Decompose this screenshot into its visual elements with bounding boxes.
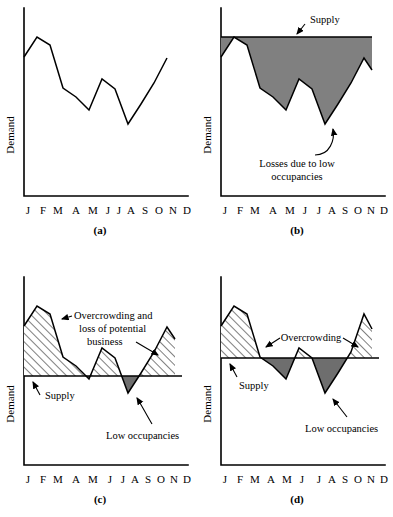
chart-c-ylabel: Demand bbox=[4, 385, 16, 423]
chart-c-month-labels: J F M A M J J A S O N D bbox=[26, 473, 191, 485]
month-label: F bbox=[237, 204, 243, 216]
chart-b-ylabel: Demand bbox=[201, 116, 213, 154]
losses-leader-arrow bbox=[315, 129, 333, 155]
panel-a-caption: (a) bbox=[94, 224, 107, 237]
month-label: M bbox=[250, 204, 260, 216]
panel-b-caption: (b) bbox=[290, 224, 304, 237]
month-label: O bbox=[157, 473, 165, 485]
chart-d-overcrowding-annotation: Overcrowding bbox=[266, 332, 358, 347]
panel-c: Overcrowding and loss of potential busin… bbox=[0, 259, 196, 517]
month-label: S bbox=[342, 204, 348, 216]
overcrowding-label-line3: business bbox=[87, 336, 123, 347]
month-label: F bbox=[40, 473, 46, 485]
month-label: N bbox=[367, 473, 375, 485]
month-label: M bbox=[282, 473, 292, 485]
overcrowding-leader-arrow-right bbox=[136, 342, 158, 355]
month-label: A bbox=[269, 204, 277, 216]
supply-leader-arrow bbox=[297, 24, 305, 34]
supply-label: Supply bbox=[239, 380, 270, 391]
month-label: D bbox=[183, 204, 191, 216]
month-label: A bbox=[131, 473, 139, 485]
chart-b-supply-annotation: Supply bbox=[297, 14, 341, 34]
supply-label: Supply bbox=[45, 390, 76, 401]
month-label: J bbox=[317, 204, 322, 216]
month-label: F bbox=[237, 473, 243, 485]
panel-d-caption: (d) bbox=[290, 493, 304, 506]
chart-b-loss-area bbox=[221, 37, 372, 124]
panel-c-caption: (c) bbox=[94, 493, 107, 506]
month-label: J bbox=[106, 204, 111, 216]
chart-a-demand-curve bbox=[24, 37, 167, 124]
month-label: A bbox=[328, 473, 336, 485]
month-label: D bbox=[380, 473, 388, 485]
chart-d-axes bbox=[221, 277, 385, 465]
supply-leader-arrow bbox=[33, 382, 40, 395]
chart-b-losses-annotation: Losses due to low occupancies bbox=[259, 129, 335, 182]
month-label: J bbox=[303, 204, 308, 216]
month-label: D bbox=[380, 204, 388, 216]
chart-d-supply-annotation: Supply bbox=[230, 364, 270, 391]
month-label: S bbox=[142, 204, 148, 216]
chart-a-ylabel: Demand bbox=[4, 116, 16, 154]
chart-b-month-labels: J F M A M J J A S O N D bbox=[223, 204, 388, 216]
chart-d-ylabel: Demand bbox=[201, 385, 213, 423]
chart-c-overcrowding-annotation: Overcrowding and loss of potential busin… bbox=[62, 310, 158, 355]
month-label: M bbox=[53, 473, 63, 485]
month-label: J bbox=[108, 473, 113, 485]
chart-d-month-labels: J F M A M J J A S O N D bbox=[223, 473, 388, 485]
panel-a: Demand J F M A M J J A S O N D (a) bbox=[0, 0, 196, 258]
month-label: A bbox=[72, 473, 80, 485]
supply-leader-arrow bbox=[230, 364, 237, 377]
month-label: S bbox=[342, 473, 348, 485]
overcrowding-label-line2: loss of potential bbox=[79, 323, 146, 334]
chart-c-low-occupancies-annotation: Low occupancies bbox=[106, 398, 179, 441]
chart-c-supply-annotation: Supply bbox=[33, 382, 76, 401]
month-label: J bbox=[117, 204, 122, 216]
month-label: D bbox=[183, 473, 191, 485]
panel-b: Supply Losses due to low occupancies Dem… bbox=[197, 0, 393, 258]
month-label: M bbox=[88, 473, 98, 485]
month-label: J bbox=[223, 473, 228, 485]
month-label: O bbox=[354, 473, 362, 485]
month-label: N bbox=[170, 473, 178, 485]
month-label: J bbox=[26, 204, 31, 216]
month-label: O bbox=[354, 204, 362, 216]
month-label: N bbox=[367, 204, 375, 216]
low-occupancies-leader-arrow bbox=[137, 398, 152, 424]
month-label: S bbox=[145, 473, 151, 485]
month-label: M bbox=[53, 204, 63, 216]
month-label: J bbox=[317, 473, 322, 485]
chart-a-plot bbox=[24, 8, 188, 196]
low-occupancies-label: Low occupancies bbox=[106, 430, 179, 441]
chart-d-low-occupancies-annotation: Low occupancies bbox=[305, 399, 378, 434]
chart-a-axes bbox=[24, 8, 188, 196]
panel-d: Overcrowding Supply Low occupancies Dema… bbox=[197, 259, 393, 517]
chart-d-plot bbox=[221, 277, 385, 465]
losses-label-line2: occupancies bbox=[271, 171, 322, 182]
losses-label-line1: Losses due to low bbox=[259, 158, 335, 169]
overcrowding-leader-arrow-left bbox=[266, 338, 280, 347]
month-label: J bbox=[121, 473, 126, 485]
overcrowding-label: Overcrowding bbox=[281, 332, 342, 343]
month-label: M bbox=[250, 473, 260, 485]
month-label: M bbox=[88, 204, 98, 216]
month-label: J bbox=[300, 473, 305, 485]
month-label: M bbox=[285, 204, 295, 216]
month-label: O bbox=[155, 204, 163, 216]
low-occupancies-leader-arrow bbox=[333, 399, 347, 417]
month-label: N bbox=[169, 204, 177, 216]
month-label: A bbox=[267, 473, 275, 485]
month-label: A bbox=[127, 204, 135, 216]
month-label: J bbox=[223, 204, 228, 216]
chart-a-month-labels: J F M A M J J A S O N D bbox=[26, 204, 191, 216]
supply-label: Supply bbox=[310, 14, 341, 25]
month-label: F bbox=[40, 204, 46, 216]
month-label: A bbox=[72, 204, 80, 216]
figure-container: Demand J F M A M J J A S O N D (a) bbox=[0, 0, 393, 517]
month-label: J bbox=[26, 473, 31, 485]
low-occupancies-label: Low occupancies bbox=[305, 423, 378, 434]
month-label: A bbox=[328, 204, 336, 216]
overcrowding-label-line1: Overcrowding and bbox=[74, 310, 153, 321]
overcrowding-leader-arrow-left bbox=[62, 316, 72, 319]
